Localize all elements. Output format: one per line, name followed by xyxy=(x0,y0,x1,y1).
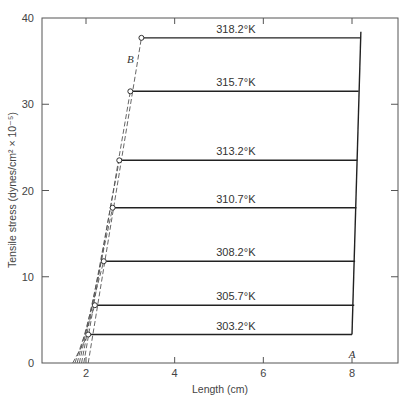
y-tick-label: 20 xyxy=(22,185,34,197)
series-dashed-line xyxy=(88,38,141,363)
series-dashed-line xyxy=(79,208,112,363)
series-marker xyxy=(110,205,115,210)
series-label: 313.2°K xyxy=(216,145,256,157)
annotation-label-b: B xyxy=(127,53,134,65)
annotation-label-a: A xyxy=(348,348,356,360)
series-label: 310.7°K xyxy=(216,193,256,205)
series-marker xyxy=(117,158,122,163)
plot-frame xyxy=(42,18,398,363)
x-tick-label: 8 xyxy=(349,367,355,379)
x-tick-label: 2 xyxy=(83,367,89,379)
y-axis-title: Tensile stress (dynes/cm² × 10⁻⁵) xyxy=(6,112,18,268)
series-marker xyxy=(92,303,97,308)
right-boundary-line xyxy=(352,32,361,335)
series-marker xyxy=(101,259,106,264)
x-tick-label: 6 xyxy=(260,367,266,379)
series-label: 318.2°K xyxy=(216,23,256,35)
series-marker xyxy=(139,35,144,40)
series-label: 308.2°K xyxy=(216,246,256,258)
x-axis-title: Length (cm) xyxy=(192,383,248,395)
y-tick-label: 0 xyxy=(28,357,34,369)
x-tick-label: 4 xyxy=(172,367,178,379)
series-label: 303.2°K xyxy=(216,320,256,332)
y-tick-label: 30 xyxy=(22,98,34,110)
y-tick-label: 40 xyxy=(22,12,34,24)
series-marker xyxy=(128,89,133,94)
series-label: 315.7°K xyxy=(216,76,256,88)
y-tick-label: 10 xyxy=(22,271,34,283)
chart: 2468010203040 318.2°K315.7°K313.2°K310.7… xyxy=(0,0,407,400)
series-label: 305.7°K xyxy=(216,290,256,302)
series-marker xyxy=(86,332,91,337)
